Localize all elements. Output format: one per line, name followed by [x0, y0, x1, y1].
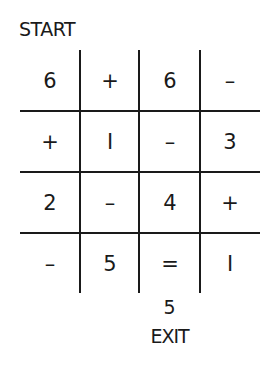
grid-cell-r1-c3: 3 [200, 111, 260, 172]
exit-value: 5 [139, 296, 200, 318]
grid-cell-r2-c0: 2 [20, 172, 80, 233]
puzzle-grid: 6 + 6 – + I – 3 2 – 4 + – 5 = I [20, 50, 260, 293]
grid-cell-r2-c1: – [80, 172, 140, 233]
grid-cell-r1-c1: I [80, 111, 140, 172]
start-label: START [19, 18, 75, 40]
grid-cell-r0-c0: 6 [20, 50, 80, 111]
grid-cell-r3-c1: 5 [80, 233, 140, 294]
grid-cell-r3-c0: – [20, 233, 80, 294]
grid-cell-r0-c1: + [80, 50, 140, 111]
grid-cell-r1-c2: – [140, 111, 200, 172]
grid-cell-r1-c0: + [20, 111, 80, 172]
grid-cell-r2-c3: + [200, 172, 260, 233]
grid-cell-r2-c2: 4 [140, 172, 200, 233]
grid-cell-r3-c3: I [200, 233, 260, 294]
grid-cell-r3-c2: = [140, 233, 200, 294]
grid-cell-r0-c3: – [200, 50, 260, 111]
grid-cell-r0-c2: 6 [140, 50, 200, 111]
exit-label: EXIT [139, 325, 200, 347]
